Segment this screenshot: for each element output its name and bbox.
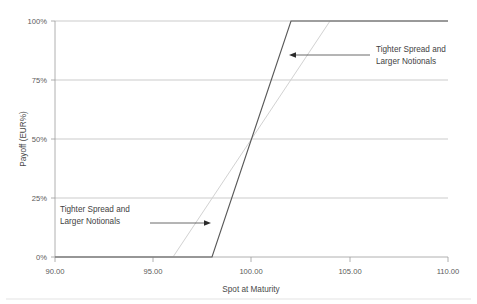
y-tick-label-75: 75% [32,76,47,85]
y-tick-label-50: 50% [32,135,47,144]
annotation-upper-line2: Larger Notionals [376,57,436,66]
y-tick-label-25: 25% [32,194,47,203]
x-tick-label-90: 90.00 [45,267,64,276]
x-axis-title: Spot at Maturity [222,285,280,294]
x-tick-label-100: 100.00 [239,267,262,276]
x-tick-label-105: 105.00 [338,267,361,276]
annotation-lower-line1: Tighter Spread and [60,205,130,214]
y-tick-label-100: 100% [28,17,48,26]
x-tick-label-95: 95.00 [143,267,162,276]
y-axis-title: Payoff (EUR%) [19,111,28,167]
annotation-lower-line2: Larger Notionals [60,217,120,226]
x-tick-label-110: 110.00 [437,267,460,276]
payoff-chart-canvas: 100% 75% 50% 25% 0% 90.00 95.00 100.00 1… [0,0,477,304]
annotation-upper-line1: Tighter Spread and [376,45,446,54]
y-tick-label-0: 0% [36,253,47,262]
chart-figure: 100% 75% 50% 25% 0% 90.00 95.00 100.00 1… [0,0,477,304]
